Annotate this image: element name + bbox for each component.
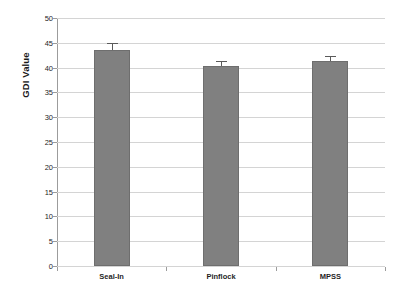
x-axis-category-label: Seal-In [72,272,152,281]
x-axis-tick-mark [166,267,167,271]
error-bar-cap [107,43,118,44]
y-axis-tick-label: 30 [29,113,53,122]
y-axis-tick-label-wrap: 50 [29,18,53,19]
bar [94,50,130,266]
y-axis-tick-label: 45 [29,39,53,48]
bar [312,61,348,266]
y-axis-tick-mark [53,167,57,168]
y-axis-tick-label-wrap: 40 [29,68,53,69]
y-axis-tick-label: 15 [29,188,53,197]
y-axis-tick-mark [53,216,57,217]
y-axis-tick-label: 20 [29,163,53,172]
y-axis-tick-label: 10 [29,212,53,221]
x-axis-category-label: Pinflock [181,272,261,281]
y-axis-tick-mark [53,43,57,44]
y-axis-tick-label-wrap: 25 [29,142,53,143]
y-axis-tick-label: 25 [29,138,53,147]
y-axis-tick-mark [53,142,57,143]
error-bar-cap [216,61,227,62]
y-axis-tick-mark [53,92,57,93]
gridline [57,266,385,267]
y-axis-tick-label-wrap: 35 [29,92,53,93]
y-axis-tick-label-wrap: 15 [29,192,53,193]
gridline [57,18,385,19]
y-axis-tick-label-wrap: 45 [29,43,53,44]
x-axis-tick-mark [57,267,58,271]
y-axis-tick-label: 35 [29,88,53,97]
y-axis-tick-label-wrap: 0 [29,266,53,267]
y-axis-tick-mark [53,241,57,242]
bar-chart: GDI Value 05101520253035404550 Seal-InPi… [0,0,406,298]
y-axis-tick-mark [53,192,57,193]
x-axis-tick-mark [276,267,277,271]
y-axis-tick-label: 50 [29,14,53,23]
x-axis-category-label: MPSS [290,272,370,281]
y-axis-tick-label-wrap: 20 [29,167,53,168]
y-axis-tick-mark [53,117,57,118]
y-axis-tick-mark [53,68,57,69]
error-bar-cap [325,56,336,57]
x-axis-tick-mark [385,267,386,271]
y-axis-tick-label: 5 [29,237,53,246]
bar [203,66,239,266]
y-axis-tick-mark [53,18,57,19]
y-axis-tick-label-wrap: 10 [29,216,53,217]
error-bar-line [112,43,113,50]
y-axis-tick-label: 40 [29,64,53,73]
y-axis-tick-label: 0 [29,262,53,271]
y-axis-tick-label-wrap: 5 [29,241,53,242]
y-axis-tick-label-wrap: 30 [29,117,53,118]
